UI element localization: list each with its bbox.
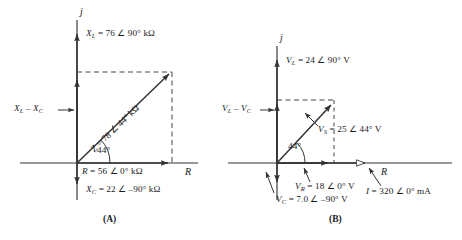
panel-b-angle-label: 44° — [288, 142, 301, 151]
panel-a-label-xc: XC = 22 ∠ –90° kΩ — [86, 185, 160, 195]
panel-b-label-vc: VC = 7.0 ∠ –90° V — [276, 195, 348, 205]
panel-b-leader-i — [369, 168, 381, 186]
panel-b-label-vlvc-dash: – — [232, 103, 242, 113]
panel-a-axis-label-j: j — [80, 6, 83, 17]
panel-b-label-vs: VS = 25 ∠ 44° V — [318, 125, 382, 135]
panel-b-label-i-value: = 320 ∠ 0° mA — [369, 186, 431, 196]
panel-a-angle-label: 44° — [97, 146, 110, 155]
panel-a-label-xlxc-subscript2: C — [39, 107, 44, 114]
panel-b-label-i: I = 320 ∠ 0° mA — [366, 187, 431, 196]
panel-b-label-vr: VR = 18 ∠ 0° V — [295, 182, 355, 192]
panel-a-label-xl: XL = 76 ∠ 90° kΩ — [86, 29, 155, 39]
panel-b-label-vs-value: = 25 ∠ 44° V — [327, 124, 381, 134]
panel-b-leader-vc — [266, 172, 274, 193]
panel-a-caption: (A) — [103, 214, 116, 224]
panel-b-label-vr-value: = 18 ∠ 0° V — [305, 181, 355, 191]
panel-b-label-vl-value: = 24 ∠ 90° V — [296, 55, 350, 65]
panel-b-leader-vs — [305, 113, 318, 126]
panel-b-label-vl: VL = 24 ∠ 90° V — [286, 56, 350, 66]
panel-a-label-xc-value: = 22 ∠ –90° kΩ — [96, 184, 160, 194]
panel-a-label-r-value: = 56 ∠ 0° kΩ — [88, 166, 143, 176]
panel-b-group — [228, 46, 452, 200]
panel-b-label-vlvc-subscript2: C — [247, 107, 252, 114]
panel-b-leader-vr — [304, 168, 310, 182]
panel-a-label-xlxc-dash: – — [24, 103, 34, 113]
panel-b-axis-label-j: j — [280, 32, 283, 43]
panel-b-label-vc-value: = 7.0 ∠ –90° V — [286, 194, 348, 204]
panel-a-label-xl-value: = 76 ∠ 90° kΩ — [96, 28, 156, 38]
panel-b-caption: (B) — [329, 214, 342, 224]
panel-a-label-r: R = 56 ∠ 0° kΩ — [82, 167, 143, 176]
phasor-diagram-vector-layer — [0, 0, 462, 240]
panel-a-axis-label-r: R — [185, 166, 191, 177]
panel-b-axis-label-r: R — [381, 166, 387, 177]
panel-a-label-xl-minus-xc: XL – XC — [14, 104, 43, 114]
figure-canvas: j R XL = 76 ∠ 90° kΩ XL – XC Z = 78 ∠ 44… — [0, 0, 462, 240]
panel-b-label-vl-minus-vc: VL – VC — [222, 104, 251, 114]
